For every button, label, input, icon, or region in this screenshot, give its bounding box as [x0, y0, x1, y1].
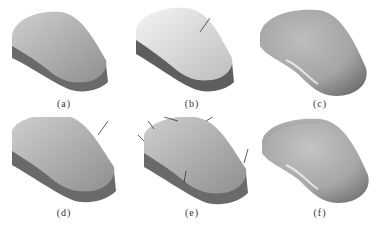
panel-label: (e) — [128, 207, 256, 218]
mouse-model-f — [256, 117, 384, 217]
mouse-model-b — [128, 0, 256, 100]
arrow-icon — [98, 121, 108, 135]
panel-f: (f) — [256, 117, 384, 233]
panel-e: (e) — [128, 117, 256, 233]
panel-label: (c) — [256, 98, 384, 109]
panel-label: (b) — [128, 98, 256, 109]
panel-label: (d) — [0, 207, 128, 218]
panel-a: (a) — [0, 0, 128, 116]
mouse-model-a — [0, 0, 128, 100]
mouse-model-d — [0, 117, 128, 217]
panel-b: (b) — [128, 0, 256, 116]
panel-c: (c) — [256, 0, 384, 116]
panel-label: (f) — [256, 207, 384, 218]
panel-d: (d) — [0, 117, 128, 233]
mouse-model-c — [256, 0, 384, 100]
panel-label: (a) — [0, 98, 128, 109]
mouse-model-e — [128, 117, 256, 217]
